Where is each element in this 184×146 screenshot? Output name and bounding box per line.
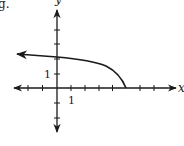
y-unit-label: 1 — [44, 68, 51, 81]
x-axis-label: x — [178, 81, 184, 95]
function-curve — [17, 54, 126, 88]
x-unit-label: 1 — [68, 94, 75, 107]
graph: g. y x 1 1 — [0, 0, 184, 146]
y-axis-label: y — [54, 0, 62, 6]
problem-label: g. — [0, 0, 10, 11]
